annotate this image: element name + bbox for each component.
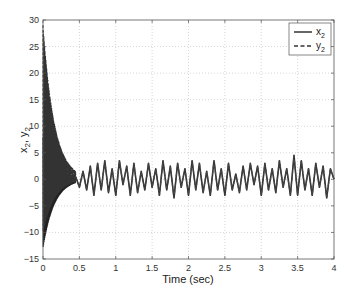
data-lines — [76, 155, 334, 198]
x-tick-label: 0 — [40, 263, 45, 273]
y-tick-label: 20 — [29, 68, 39, 78]
x-tick-label: 3 — [259, 263, 264, 273]
y-tick-label: −15 — [24, 254, 39, 264]
y-tick-label: 0 — [34, 174, 39, 184]
line-chart: 00.511.522.533.54 −15−10−5051015202530 T… — [0, 0, 350, 302]
x-tick-label: 3.5 — [291, 263, 304, 273]
transient-region — [43, 25, 76, 247]
y-tick-label: 5 — [34, 148, 39, 158]
y-tick-label: 15 — [29, 95, 39, 105]
x-axis-label: Time (sec) — [162, 273, 214, 285]
y-tick-label: −5 — [29, 201, 39, 211]
y-axis-ticks: −15−10−5051015202530 — [24, 15, 334, 264]
y2-transient-line — [43, 25, 76, 231]
x-tick-label: 2 — [186, 263, 191, 273]
legend: x2 y2 — [289, 23, 331, 55]
x-tick-label: 1.5 — [146, 263, 159, 273]
x-tick-label: 0.5 — [73, 263, 86, 273]
x-tick-label: 1 — [113, 263, 118, 273]
y-tick-label: 25 — [29, 42, 39, 52]
grid-lines — [43, 20, 334, 259]
x-tick-label: 2.5 — [219, 263, 232, 273]
y-axis-label: x2, y2 — [17, 126, 32, 153]
svg-text:x2, y2: x2, y2 — [17, 126, 32, 153]
x-tick-label: 4 — [331, 263, 336, 273]
y-tick-label: −10 — [24, 227, 39, 237]
y-tick-label: 30 — [29, 15, 39, 25]
x2-line — [76, 155, 334, 198]
plot-area-border — [43, 20, 334, 259]
